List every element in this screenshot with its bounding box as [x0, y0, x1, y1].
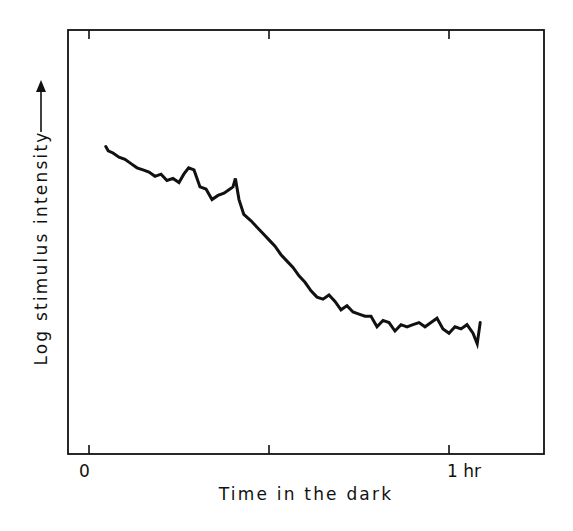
threshold-curve — [106, 147, 480, 344]
y-axis-title: Log stimulus intensity — [31, 130, 51, 365]
up-arrow-icon — [36, 80, 46, 132]
x-axis-title: Time in the dark — [218, 484, 393, 504]
x-axis-tick-labels: 01 hr — [79, 461, 481, 481]
plot-frame — [68, 30, 544, 454]
x-tick-label: 1 hr — [447, 461, 481, 481]
y-axis-title-group: Log stimulus intensity — [31, 80, 51, 366]
x-tick-label: 0 — [79, 461, 90, 481]
dark-adaptation-chart: 01 hr Time in the dark Log stimulus inte… — [0, 0, 573, 531]
